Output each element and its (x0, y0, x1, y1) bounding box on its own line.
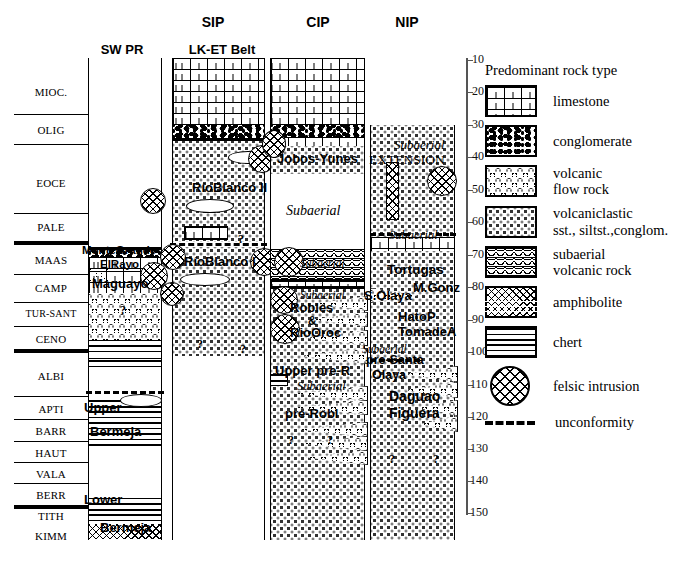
axis-tick-label: 60 (472, 214, 484, 229)
chert-lens (180, 273, 230, 286)
axis-tick-label: 30 (472, 117, 484, 132)
unit-label-daguao: Daguao (389, 389, 440, 403)
question-mark: ? (288, 433, 294, 448)
axis-tick-label: 40 (472, 149, 484, 164)
unit-label-extension: EXTENSION (369, 153, 445, 167)
unit-label-tortugas: Tortugas (387, 263, 444, 277)
unit-label-hatop: HatoP (398, 310, 436, 323)
legend-item-subaerial-volcanic-rock: subaerial volcanic rock (485, 246, 685, 278)
axis-tick-label: 80 (472, 279, 484, 294)
unit-label-bermeja: Bermeja (90, 425, 141, 438)
stage-label: HAUT (14, 447, 88, 459)
felsic-intrusion-icon (427, 166, 457, 196)
unconformity-line (86, 391, 164, 394)
axis-tick-label: 70 (472, 247, 484, 262)
volcanic-lens (120, 394, 162, 407)
legend-label-line2: flow rock (553, 181, 609, 197)
limestone-swatch-icon (485, 85, 537, 117)
unit-label-montegrande: MonteGrande (82, 245, 156, 257)
axis-tick-label: 10 (472, 52, 484, 67)
conglomerate-swatch-icon (485, 125, 537, 157)
legend-label-line1: subaerial (553, 246, 632, 262)
geologic-stage-column: MIOC. OLIG EOCE PALE MAAS CAMP TUR-SANT … (14, 58, 90, 513)
unit-label-elrayo: ElRayo (100, 259, 139, 271)
header-sw-pr: SW PR (82, 42, 162, 57)
header-sip: SIP (183, 14, 243, 30)
stage-label: VALA (14, 468, 88, 480)
unit-label-pre-robl: pre-Robl (285, 407, 338, 420)
volcanic-flow-rock-swatch-icon (485, 165, 537, 197)
header-lk-et-belt: LK-ET Belt (176, 42, 268, 57)
legend-item-chert: chert (485, 326, 685, 358)
unit-label-tomadea: TomadeA (398, 325, 456, 338)
unit-label-rioblanco-2: RíoBlanco II (192, 181, 267, 194)
question-mark: ? (120, 303, 126, 318)
question-mark: ? (389, 452, 395, 467)
header-cip: CIP (288, 14, 348, 30)
axis-tick-label: 130 (470, 441, 488, 456)
legend-label-line1: volcanic (553, 165, 609, 181)
felsic-intrusion-swatch-icon (490, 366, 530, 406)
chert-swatch-icon (485, 326, 537, 358)
felsic-intrusion-icon (140, 188, 166, 214)
legend-label: conglomerate (553, 133, 632, 149)
stage-label: TITH (14, 510, 88, 522)
unconformity-line (170, 243, 267, 246)
legend-item-amphibolite: amphibolite (485, 286, 685, 318)
unit-label-pre-santa: pre-Santa (366, 354, 424, 367)
stage-label: MIOC. (14, 86, 88, 98)
legend-item-conglomerate: conglomerate (485, 125, 685, 157)
unit-label-jobos-yunes: Jobos-Yunes (277, 152, 358, 165)
volcaniclastic-swatch-icon (485, 206, 537, 238)
legend-label: chert (553, 334, 582, 350)
felsic-intrusion-bar (386, 162, 399, 220)
legend-label: limestone (553, 93, 609, 109)
legend-label: unconformity (555, 414, 634, 430)
legend-title: Predominant rock type (485, 62, 685, 79)
question-mark: ? (240, 342, 246, 357)
axis-tick-label: 20 (472, 84, 484, 99)
cip-boundary (270, 279, 365, 282)
stage-label: BERR (14, 489, 88, 501)
legend-label-line1: volcaniclastic (553, 205, 668, 221)
felsic-intrusion-icon (160, 244, 186, 270)
stage-label: PALE (14, 221, 88, 233)
unit-label-olaya: Olaya (372, 369, 406, 382)
stage-label: ALBI (14, 370, 88, 382)
legend-item-volcanic-flow-rock: volcanic flow rock (485, 165, 685, 197)
question-mark: ? (238, 232, 244, 247)
sw-pr-column (88, 58, 162, 540)
question-mark: ? (197, 337, 203, 352)
limestone-lens (184, 226, 228, 240)
unit-label-subaerial: Subaerial (394, 138, 445, 151)
unit-label-m-gonz: M.Gonz (413, 281, 460, 294)
legend-item-limestone: limestone (485, 85, 685, 117)
legend-label-line2: volcanic rock (553, 262, 632, 278)
legend-label: amphibolite (553, 294, 622, 310)
stage-label: TUR-SANT (14, 308, 88, 319)
unit-label-bermeja: Bermeja (100, 521, 151, 534)
unit-label-s-olaya: S.Olaya (364, 289, 412, 302)
legend: Predominant rock type limestone conglome… (485, 62, 685, 439)
header-nip: NIP (377, 14, 437, 30)
stage-label: APTI (14, 403, 88, 415)
legend-item-felsic-intrusion: felsic intrusion (485, 366, 685, 406)
sip-lk-et-belt-column (172, 58, 265, 540)
sip-boundary (172, 138, 265, 141)
subaerial-volcanic-rock-swatch-icon (485, 246, 537, 278)
unit-label-figuera: Figuera (389, 406, 440, 420)
question-mark: ? (327, 433, 333, 448)
unit-label-rioblanco-1: RíoBlanco I (184, 255, 256, 268)
unconformity-swatch-icon (485, 421, 537, 425)
unit-label-subaerial: Subaerial (297, 380, 346, 393)
unconformity-line (436, 233, 456, 236)
legend-label-line2: sst., siltst.,conglom. (553, 222, 668, 238)
question-mark: ? (433, 452, 439, 467)
amphibolite-swatch-icon (485, 286, 537, 318)
unit-label-subaerial: Subaerial (389, 229, 438, 242)
unit-label-lower: Lower (84, 493, 122, 506)
stage-label: BARR (14, 425, 88, 437)
legend-item-volcaniclastic: volcaniclastic sst., siltst.,conglom. (485, 205, 685, 237)
axis-tick-label: 140 (470, 473, 488, 488)
stage-label: MAAS (14, 254, 88, 266)
